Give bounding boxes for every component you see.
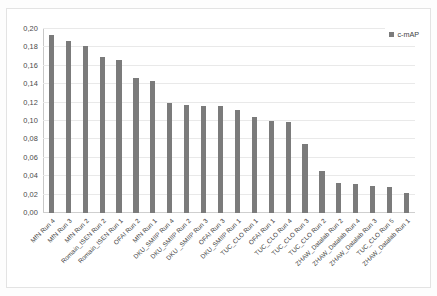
bar[interactable] bbox=[201, 106, 206, 213]
bar[interactable] bbox=[353, 184, 358, 213]
bar-slot bbox=[111, 29, 128, 213]
bar-slot bbox=[229, 29, 246, 213]
chart-figure: 0,200,180,160,140,120,100,080,060,040,02… bbox=[0, 0, 437, 296]
bar-slot bbox=[178, 29, 195, 213]
legend-swatch-icon bbox=[389, 32, 394, 37]
bar[interactable] bbox=[269, 121, 274, 213]
bar[interactable] bbox=[218, 106, 223, 213]
chart-legend: c-mAP bbox=[385, 28, 423, 41]
plot-area: 0,200,180,160,140,120,100,080,060,040,02… bbox=[43, 29, 415, 213]
bar[interactable] bbox=[66, 41, 71, 213]
bar[interactable] bbox=[404, 193, 409, 213]
y-axis-tick-label: 0,00 bbox=[23, 208, 38, 217]
legend-label: c-mAP bbox=[397, 30, 419, 39]
y-axis-tick-label: 0,12 bbox=[23, 97, 38, 106]
bar-slot bbox=[161, 29, 178, 213]
bar[interactable] bbox=[167, 103, 172, 213]
bar[interactable] bbox=[100, 57, 105, 213]
bar[interactable] bbox=[184, 105, 189, 213]
bar-slot bbox=[280, 29, 297, 213]
bar[interactable] bbox=[116, 60, 121, 213]
y-axis-tick-label: 0,06 bbox=[23, 152, 38, 161]
bar[interactable] bbox=[370, 186, 375, 213]
bar-slot bbox=[330, 29, 347, 213]
x-axis-labels: MfN Run 4MfN Run 3MfN Run 2Romain_ISEN R… bbox=[43, 215, 415, 295]
bar-slot bbox=[314, 29, 331, 213]
bar-slot bbox=[195, 29, 212, 213]
y-axis-tick-label: 0,16 bbox=[23, 60, 38, 69]
bar[interactable] bbox=[83, 46, 88, 213]
y-axis-tick-label: 0,04 bbox=[23, 171, 38, 180]
bar[interactable] bbox=[286, 122, 291, 213]
bar-slot bbox=[128, 29, 145, 213]
bar[interactable] bbox=[150, 81, 155, 213]
y-axis-tick-label: 0,18 bbox=[23, 42, 38, 51]
bar-slot bbox=[43, 29, 60, 213]
bar-slot bbox=[364, 29, 381, 213]
y-axis-tick-label: 0,10 bbox=[23, 116, 38, 125]
x-label-slot: ZHAW_Datalab Run 1 bbox=[398, 215, 415, 295]
bar-slot bbox=[347, 29, 364, 213]
y-axis-tick-label: 0,02 bbox=[23, 189, 38, 198]
bar[interactable] bbox=[319, 171, 324, 213]
bar-group bbox=[43, 29, 415, 213]
y-axis-tick-label: 0,20 bbox=[23, 24, 38, 33]
bar[interactable] bbox=[49, 35, 54, 213]
bar-slot bbox=[212, 29, 229, 213]
bar[interactable] bbox=[336, 183, 341, 213]
bar-slot bbox=[381, 29, 398, 213]
bar[interactable] bbox=[252, 117, 257, 213]
bar-slot bbox=[246, 29, 263, 213]
bar[interactable] bbox=[302, 144, 307, 213]
y-axis-tick-label: 0,14 bbox=[23, 79, 38, 88]
bar[interactable] bbox=[235, 110, 240, 213]
bar-slot bbox=[398, 29, 415, 213]
bar-slot bbox=[60, 29, 77, 213]
bar-slot bbox=[297, 29, 314, 213]
bar-slot bbox=[263, 29, 280, 213]
bar-slot bbox=[77, 29, 94, 213]
bar-slot bbox=[94, 29, 111, 213]
bar[interactable] bbox=[133, 78, 138, 213]
bar[interactable] bbox=[387, 187, 392, 213]
bar-slot bbox=[144, 29, 161, 213]
y-axis-tick-label: 0,08 bbox=[23, 134, 38, 143]
